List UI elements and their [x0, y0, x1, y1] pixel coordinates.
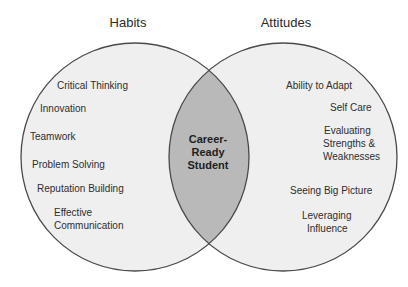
habit-item: Communication [54, 220, 123, 232]
habits-title: Habits [110, 15, 147, 30]
attitude-item: Ability to Adapt [286, 80, 352, 92]
habit-item: Critical Thinking [57, 80, 128, 92]
attitude-item: Influence [307, 223, 348, 235]
attitude-item: Strengths & [323, 138, 375, 150]
attitude-item: Evaluating [324, 125, 371, 137]
habit-item: Problem Solving [32, 159, 105, 171]
attitude-item: Weaknesses [323, 151, 380, 163]
intersection-label: Career- Ready Student [188, 133, 229, 172]
habit-item: Innovation [40, 103, 86, 115]
attitudes-title: Attitudes [261, 15, 312, 30]
attitude-item: Self Care [330, 102, 372, 114]
habit-item: Effective [54, 207, 92, 219]
habit-item: Reputation Building [37, 183, 124, 195]
attitude-item: Seeing Big Picture [290, 185, 372, 197]
habit-item: Teamwork [30, 131, 76, 143]
attitude-item: Leveraging [302, 210, 351, 222]
